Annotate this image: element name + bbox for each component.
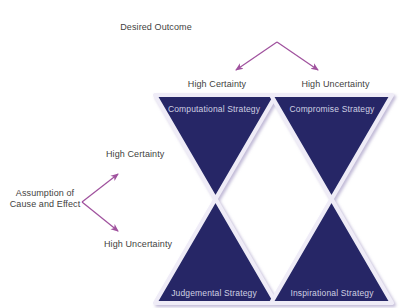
- label-cell-inspirational-strategy: Inspirational Strategy: [276, 288, 388, 298]
- arrow-desired-outcome-to-high-certainty: [236, 42, 277, 70]
- top-arrow-group: [236, 42, 318, 70]
- bowtie-right: [271, 95, 392, 303]
- arrow-assumption-to-high-certainty: [82, 174, 118, 202]
- diagram-graphics: [0, 0, 409, 308]
- arrow-assumption-to-high-uncertainty: [82, 202, 118, 231]
- label-left-high-uncertainty: High Uncertainty: [104, 239, 194, 250]
- label-desired-outcome: Desired Outcome: [0, 22, 361, 33]
- label-cell-judgemental-strategy: Judgemental Strategy: [158, 288, 270, 298]
- label-top-high-certainty: High Certainty: [162, 79, 272, 90]
- bowtie-left: [155, 95, 276, 303]
- label-cell-compromise-strategy: Compromise Strategy: [276, 104, 388, 114]
- label-assumption-of-cause-and-effect: Assumption of Cause and Effect: [8, 188, 82, 210]
- left-arrow-group: [82, 174, 118, 231]
- label-top-high-uncertainty: High Uncertainty: [278, 79, 393, 90]
- label-cell-computational-strategy: Computational Strategy: [158, 104, 270, 114]
- diagram-canvas: Desired Outcome High Certainty High Unce…: [0, 0, 409, 308]
- matrix-shape-group: [155, 95, 392, 303]
- label-left-high-certainty: High Certainty: [106, 149, 190, 160]
- arrow-desired-outcome-to-high-uncertainty: [277, 42, 318, 70]
